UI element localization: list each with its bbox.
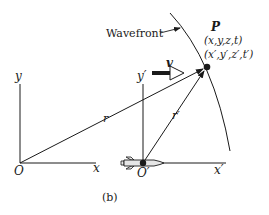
relativity-frames-diagram: y x O y′ x′ O′ Wavefront P (x,y,z,t) (x′… <box>0 0 269 215</box>
origin-prime-label: O′ <box>137 166 150 180</box>
r-prime-vector-label: r′ <box>172 109 180 122</box>
x-axis-label: x <box>93 161 100 175</box>
x-prime-axis-label: x′ <box>214 163 224 177</box>
frame-s: y x O <box>14 69 100 178</box>
origin-label: O <box>14 164 24 178</box>
wavefront-label: Wavefront <box>106 27 164 40</box>
velocity-label: v <box>166 56 174 70</box>
coords-primed-label: (x′,y′,z′,t′) <box>204 48 253 60</box>
y-axis-label: y <box>14 69 22 83</box>
r-vector-label: r <box>103 112 109 125</box>
figure-caption: (b) <box>102 191 118 204</box>
point-p-label: P <box>210 20 221 34</box>
y-prime-axis-label: y′ <box>136 69 147 83</box>
coords-unprimed-label: (x,y,z,t) <box>204 34 242 46</box>
point-p <box>204 64 211 71</box>
